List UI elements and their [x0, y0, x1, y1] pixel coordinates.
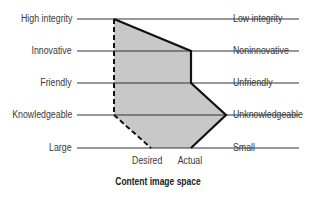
left-label-large: Large: [49, 142, 72, 154]
right-label-unfriendly: Unfriendly: [233, 77, 273, 89]
left-label-innovative: Innovative: [32, 45, 72, 57]
left-label-friendly: Friendly: [41, 77, 72, 89]
desired-label: Desired: [132, 155, 162, 167]
profile-chart: [0, 0, 316, 197]
right-label-noninnovative: Noninnovative: [233, 45, 289, 57]
right-label-low-integrity: Low integrity: [233, 13, 282, 25]
right-label-small: Small: [233, 142, 255, 154]
right-label-unknowledgeable: Unknowledgeable: [233, 109, 303, 121]
left-label-high-integrity: High integrity: [21, 13, 72, 25]
actual-label: Actual: [178, 155, 202, 167]
left-label-knowledgeable: Knowledgeable: [12, 109, 72, 121]
chart-caption: Content image space: [24, 176, 293, 187]
